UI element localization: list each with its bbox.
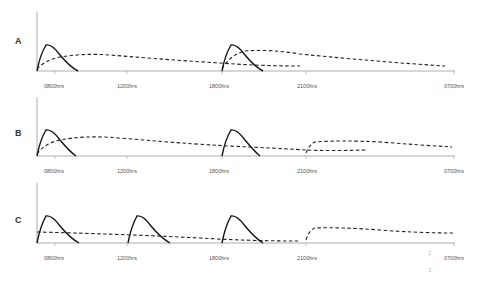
tick-label: 1800hrs xyxy=(209,168,229,174)
tick-label: 0800hrs xyxy=(44,168,64,174)
panel-label: C xyxy=(15,215,22,225)
dashed-curve xyxy=(306,228,453,240)
solid-curve xyxy=(222,45,263,71)
solid-curve xyxy=(37,130,76,156)
dashed-curve xyxy=(306,141,452,153)
panel-label: A xyxy=(15,36,22,46)
solid-curve xyxy=(37,45,78,71)
tick-label: 1200hrs xyxy=(117,168,137,174)
tick-label: 2100hrs xyxy=(297,255,317,261)
tick-label: 0700hrs xyxy=(444,168,464,174)
tick-label: 0700hrs xyxy=(444,83,464,89)
panel-c: C 0800hrs 1200hrs 1800hrs 2100hrs 0700hr… xyxy=(15,183,464,261)
panel-a: A 0800hrs 1200hrs 1800hrs 2100hrs 0700hr… xyxy=(15,12,464,89)
chart: A 0800hrs 1200hrs 1800hrs 2100hrs 0700hr… xyxy=(0,0,484,287)
solid-curve xyxy=(37,216,79,243)
tick-label: 1800hrs xyxy=(209,255,229,261)
solid-curve xyxy=(128,216,170,243)
tick-label: 1800hrs xyxy=(209,83,229,89)
dashed-curve xyxy=(37,137,366,154)
stray-mark: 3 xyxy=(428,267,432,273)
tick-label: 2100hrs xyxy=(297,83,317,89)
panel-b: B 0800hrs 1200hrs 1800hrs 2100hrs 0700hr… xyxy=(15,97,464,174)
tick-label: 0800hrs xyxy=(44,255,64,261)
tick-label: 0700hrs xyxy=(444,255,464,261)
tick-label: 1200hrs xyxy=(117,83,137,89)
tick-label: 1200hrs xyxy=(117,255,137,261)
tick-label: 2100hrs xyxy=(297,168,317,174)
stray-mark: 2 xyxy=(428,250,432,256)
solid-curve xyxy=(222,216,263,243)
solid-curve xyxy=(222,130,260,156)
dashed-curve xyxy=(37,54,300,69)
tick-label: 0800hrs xyxy=(44,83,64,89)
panel-label: B xyxy=(15,128,22,138)
